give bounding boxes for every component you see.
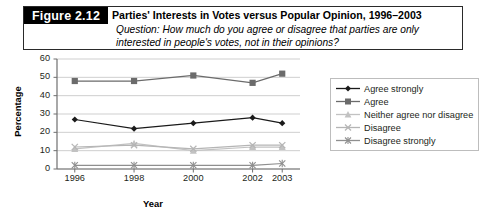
figure-question-line-1: Question: How much do you agree or disag…: [116, 24, 419, 35]
x-tick-label: 2002: [242, 173, 262, 183]
x-tick-label: 2003: [272, 173, 292, 183]
y-tick-label: 60: [24, 53, 50, 63]
legend-label: Disagree strongly: [362, 136, 436, 146]
legend-label: Agree: [362, 97, 389, 107]
legend-item[interactable]: Disagree: [334, 121, 473, 134]
x-tick-label: 1998: [124, 173, 144, 183]
figure-caption-box: Figure 2.12 Parties' Interests in Votes …: [23, 6, 463, 50]
figure-title: Parties' Interests in Votes versus Popul…: [112, 8, 459, 23]
legend-marker-diamond-icon: [334, 82, 362, 95]
legend-marker-triangle-icon: [334, 108, 362, 121]
chart-area: Percentage Year 0102030405060 1996199820…: [0, 54, 490, 218]
legend-label: Disagree: [362, 123, 401, 133]
x-tick-label: 1996: [65, 173, 85, 183]
y-tick-label: 30: [24, 108, 50, 118]
legend-marker-asterisk-icon: [334, 134, 362, 147]
legend-item[interactable]: Agree strongly: [334, 82, 473, 95]
series-agree: [72, 71, 286, 86]
y-tick-label: 10: [24, 145, 50, 155]
figure-number-tag: Figure 2.12: [24, 7, 108, 24]
series-disagree-strongly: [72, 160, 286, 169]
y-tick-label: 20: [24, 126, 50, 136]
legend-item[interactable]: Disagree strongly: [334, 134, 473, 147]
chart-legend: Agree stronglyAgreeNeither agree nor dis…: [330, 78, 479, 151]
legend-label: Agree strongly: [362, 84, 423, 94]
figure-panel: Figure 2.12 Parties' Interests in Votes …: [0, 0, 490, 218]
y-tick-label: 50: [24, 71, 50, 81]
legend-label: Neither agree nor disagree: [362, 110, 473, 120]
x-tick-label: 2000: [183, 173, 203, 183]
y-tick-label: 40: [24, 90, 50, 100]
legend-marker-square-icon: [334, 95, 362, 108]
legend-item[interactable]: Neither agree nor disagree: [334, 108, 473, 121]
figure-question-line-2: interested in people's votes, not in the…: [116, 37, 458, 50]
legend-marker-x-icon: [334, 121, 362, 134]
y-tick-label: 0: [24, 163, 50, 173]
series-agree-strongly: [72, 115, 286, 132]
legend-item[interactable]: Agree: [334, 95, 473, 108]
figure-question: Question: How much do you agree or disag…: [116, 24, 458, 49]
